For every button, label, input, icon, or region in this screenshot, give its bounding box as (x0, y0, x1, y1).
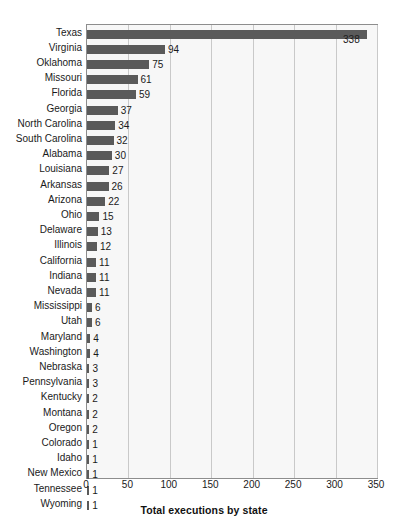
bar (87, 455, 89, 464)
category-label: South Carolina (0, 131, 82, 146)
bar-value-label: 94 (168, 42, 179, 57)
bar (87, 349, 90, 358)
category-label: Indiana (0, 268, 82, 283)
category-label: Georgia (0, 101, 82, 116)
category-label: Nevada (0, 283, 82, 298)
bar-value-label: 4 (93, 346, 99, 361)
bar-row: 1 (87, 452, 377, 467)
bar (87, 45, 165, 54)
category-label: New Mexico (0, 465, 82, 480)
category-label: Montana (0, 405, 82, 420)
bar-value-label: 2 (92, 391, 98, 406)
bar-value-label: 13 (101, 224, 112, 239)
bar-value-label: 2 (92, 407, 98, 422)
bar-row: 3 (87, 376, 377, 391)
bar-value-label: 11 (99, 285, 109, 300)
bar (87, 182, 109, 191)
bar (87, 379, 89, 388)
bar-value-label: 3 (92, 376, 98, 391)
x-tick-label: 100 (161, 479, 178, 490)
bar-row: 11 (87, 255, 377, 270)
bar-rows: 3389475615937343230272622151312111111664… (87, 25, 377, 478)
bar (87, 106, 118, 115)
category-label: Oregon (0, 420, 82, 435)
category-label: Missouri (0, 70, 82, 85)
bar (87, 227, 98, 236)
bar (87, 364, 89, 373)
bar-row: 34 (87, 118, 377, 133)
bar-row: 22 (87, 194, 377, 209)
bar-row: 59 (87, 87, 377, 102)
bar-row: 26 (87, 179, 377, 194)
bar-value-label: 1 (92, 437, 98, 452)
bar (87, 197, 105, 206)
category-label: Nebraska (0, 359, 82, 374)
bar-value-label: 12 (100, 239, 111, 254)
bar-row: 6 (87, 315, 377, 330)
bar-value-label: 1 (92, 452, 98, 467)
category-label: Louisiana (0, 161, 82, 176)
bar (87, 470, 89, 479)
x-axis-tick-labels: 050100150200250300350 (86, 479, 378, 497)
bar (87, 334, 90, 343)
bar (87, 258, 96, 267)
category-label: Illinois (0, 237, 82, 252)
bar-value-label: 59 (139, 87, 150, 102)
category-label: Idaho (0, 450, 82, 465)
category-label: Arkansas (0, 177, 82, 192)
bar-row: 37 (87, 103, 377, 118)
bar-value-label: 11 (99, 255, 109, 270)
bar (87, 30, 367, 39)
category-label: Utah (0, 313, 82, 328)
bar (87, 273, 96, 282)
category-label: Ohio (0, 207, 82, 222)
x-tick-label: 250 (285, 479, 302, 490)
category-label: Oklahoma (0, 55, 82, 70)
bar-row: 61 (87, 72, 377, 87)
bar-row: 2 (87, 407, 377, 422)
bar-row: 30 (87, 148, 377, 163)
bar-row: 11 (87, 285, 377, 300)
category-label: Pennsylvania (0, 374, 82, 389)
bar-row: 13 (87, 224, 377, 239)
bar-row: 338 (87, 27, 377, 42)
bar-value-label: 22 (108, 194, 119, 209)
bar (87, 166, 109, 175)
bar (87, 410, 89, 419)
bar (87, 440, 89, 449)
bar-value-label: 37 (121, 103, 132, 118)
bar-value-label: 3 (92, 361, 98, 376)
x-tick-label: 200 (243, 479, 260, 490)
bar-value-label: 15 (102, 209, 113, 224)
category-label: Mississippi (0, 298, 82, 313)
bar (87, 425, 89, 434)
x-tick-label: 150 (202, 479, 219, 490)
bar (87, 394, 89, 403)
bar-row: 11 (87, 270, 377, 285)
category-label: Alabama (0, 146, 82, 161)
category-label: Texas (0, 25, 82, 40)
bar-row: 32 (87, 133, 377, 148)
bar-row: 15 (87, 209, 377, 224)
bar-row: 75 (87, 57, 377, 72)
bar (87, 121, 115, 130)
bar-value-label: 27 (112, 163, 123, 178)
bar-row: 27 (87, 163, 377, 178)
x-axis-title: Total executions by state (0, 504, 408, 516)
category-label: Delaware (0, 222, 82, 237)
category-label: Virginia (0, 40, 82, 55)
category-label: North Carolina (0, 116, 82, 131)
bar-row: 2 (87, 422, 377, 437)
bar-value-label: 34 (118, 118, 129, 133)
bar (87, 242, 97, 251)
bar-value-label: 11 (99, 270, 109, 285)
category-axis-labels: TexasVirginiaOklahomaMissouriFloridaGeor… (0, 24, 82, 479)
bar (87, 288, 96, 297)
bar-row: 2 (87, 391, 377, 406)
category-label: Maryland (0, 329, 82, 344)
bar (87, 318, 92, 327)
x-tick-label: 0 (83, 479, 89, 490)
category-label: Kentucky (0, 389, 82, 404)
bar (87, 303, 92, 312)
bar (87, 136, 114, 145)
